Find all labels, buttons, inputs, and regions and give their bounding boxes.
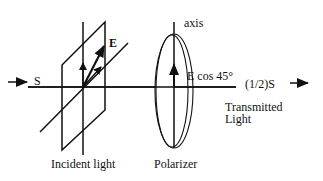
- polarizer-caption: Polarizer: [154, 157, 197, 171]
- polarizer-diagram: S E axis E cos 45° (1/2)S Transmitted Li…: [0, 0, 323, 181]
- field-vectors-icon: [83, 46, 104, 87]
- incident-light-caption: Incident light: [51, 157, 116, 171]
- incident-light-plane: [28, 22, 155, 150]
- transmitted-intensity-label: (1/2)S: [245, 77, 275, 91]
- transmitted-light-label-line2: Light: [225, 112, 252, 126]
- polarizer-axis-label: axis: [184, 16, 204, 30]
- field-vector-label: E: [109, 36, 117, 50]
- transmitted-field-label: E cos 45°: [187, 69, 233, 83]
- incident-intensity-label: S: [34, 74, 41, 88]
